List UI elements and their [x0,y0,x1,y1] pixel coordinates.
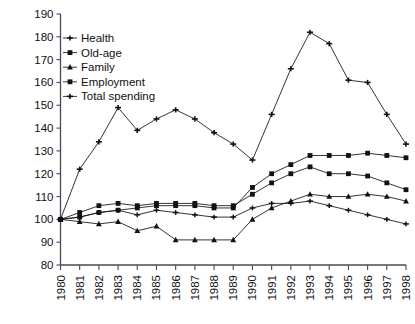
y-axis-tick-label: 190 [34,8,53,20]
data-point [403,141,409,146]
x-axis: 1980198119821983198419851986198719881989… [55,265,413,301]
x-axis-tick-label: 1985 [150,275,162,301]
legend-label: Family [81,61,115,73]
data-point [96,139,102,144]
data-point [308,153,313,158]
x-axis-tick-label: 1988 [208,275,220,301]
data-point [269,171,274,176]
data-point [307,30,313,35]
data-point [192,212,198,217]
data-point [384,153,389,158]
data-point [269,180,274,185]
data-point [231,203,236,208]
y-axis-tick-label: 170 [34,54,53,66]
series-employment [58,164,408,221]
x-axis-tick-label: 1991 [266,275,278,301]
data-point [288,171,293,176]
data-point [384,112,390,117]
x-axis-tick-label: 1993 [304,275,316,301]
x-axis-tick-label: 1989 [227,275,239,301]
data-point [67,94,73,99]
data-point [192,201,197,206]
x-axis-tick-label: 1995 [342,275,354,301]
data-point [67,36,73,41]
y-axis-tick-label: 90 [41,236,54,248]
data-point [384,217,390,222]
y-axis-tick-label: 140 [34,122,53,134]
data-point [250,216,256,221]
data-point [211,215,217,220]
data-point [134,128,140,133]
data-point [153,116,159,121]
data-point [384,180,389,185]
x-axis-tick-label: 1998 [400,275,412,301]
data-point [326,41,332,46]
legend-label: Employment [81,76,146,88]
data-point [115,219,121,224]
data-point [365,212,371,217]
data-point [346,208,352,213]
y-axis-tick-label: 120 [34,168,53,180]
data-point [365,174,370,179]
data-point [115,105,121,110]
data-point [77,210,82,215]
data-point [77,167,83,172]
x-axis-tick-label: 1981 [74,275,86,301]
y-axis-tick-label: 100 [34,213,53,225]
legend-item: Health [63,32,114,44]
x-axis-tick-label: 1983 [112,275,124,301]
legend-item: Total spending [63,90,155,102]
legend-label: Total spending [81,90,155,102]
legend-item: Old-age [63,47,122,59]
x-axis-tick-label: 1997 [381,275,393,301]
data-point [68,79,73,84]
chart-canvas: 8090100110120130140150160170180190 19801… [0,0,415,324]
data-point [327,171,332,176]
series-old-age [58,151,408,222]
chart-legend: HealthOld-ageFamilyEmploymentTotal spend… [63,32,155,102]
line-chart: 8090100110120130140150160170180190 19801… [0,0,415,324]
data-point [116,208,121,213]
y-axis-tick-label: 180 [34,31,53,43]
data-point [116,201,121,206]
legend-item: Family [63,61,115,73]
data-point [307,199,313,204]
data-point [212,203,217,208]
data-point [288,66,294,71]
data-point [307,191,313,196]
data-point [154,223,160,228]
x-axis-tick-label: 1994 [323,274,335,300]
x-axis-tick-label: 1986 [170,275,182,301]
data-point [96,210,101,215]
data-point [346,171,351,176]
data-point [230,215,236,220]
data-point [404,155,409,160]
data-point [365,80,371,85]
x-axis-tick-label: 1996 [362,275,374,301]
x-axis-tick-label: 1984 [131,274,143,300]
data-point [173,107,179,112]
data-point [345,78,351,83]
data-point [173,201,178,206]
legend-label: Old-age [81,47,122,59]
data-point [403,222,409,227]
data-point [154,208,160,213]
y-axis-tick-label: 80 [41,259,54,271]
data-point [96,203,101,208]
data-point [327,153,332,158]
data-point [288,162,293,167]
data-point [173,210,179,215]
x-axis-tick-label: 1980 [55,275,67,301]
y-axis: 8090100110120130140150160170180190 [34,8,60,271]
data-point [326,203,332,208]
data-point [365,151,370,156]
y-axis-tick-label: 150 [34,99,53,111]
legend-item: Employment [63,76,146,88]
data-point [269,112,275,117]
data-point [308,164,313,169]
x-axis-tick-label: 1987 [189,275,201,301]
y-axis-tick-label: 110 [35,191,53,203]
data-point [154,201,159,206]
data-point [250,185,255,190]
x-axis-tick-label: 1990 [246,275,258,301]
